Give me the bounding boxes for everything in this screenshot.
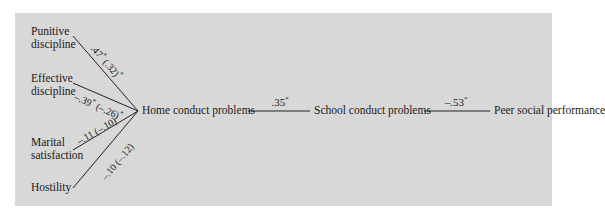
node-hostility: Hostility (31, 181, 71, 194)
node-peer-social-performance: Peer social performance (494, 104, 605, 117)
label-line: Effective (31, 72, 76, 85)
node-punitive-discipline: Punitive discipline (31, 25, 76, 51)
label-line: discipline (31, 85, 76, 98)
node-home-conduct-problems: Home conduct problems (142, 104, 255, 117)
label-line: Hostility (31, 181, 71, 194)
node-school-conduct-problems: School conduct problems (314, 104, 431, 117)
label-line: Punitive (31, 25, 76, 38)
coef-school-peer: –.53* (436, 95, 476, 108)
coef-home-school: .35* (262, 95, 298, 108)
label-line: satisfaction (31, 149, 83, 162)
node-marital-satisfaction: Marital satisfaction (31, 136, 83, 162)
label-line: discipline (31, 38, 76, 51)
node-effective-discipline: Effective discipline (31, 72, 76, 98)
